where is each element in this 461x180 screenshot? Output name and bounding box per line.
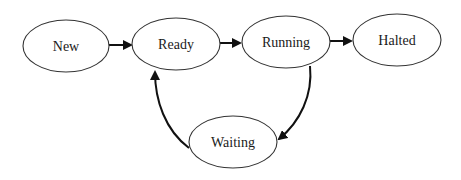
node-ready-label: Ready <box>158 37 194 52</box>
node-waiting-label: Waiting <box>211 135 255 150</box>
node-new: New <box>23 20 109 72</box>
node-new-label: New <box>53 39 80 54</box>
node-halted: Halted <box>353 14 441 66</box>
edge-running-to-waiting <box>279 66 310 139</box>
node-ready: Ready <box>132 18 220 70</box>
state-diagram: New Ready Running Halted Waiting <box>0 0 461 180</box>
edge-waiting-to-ready <box>155 72 189 148</box>
node-halted-label: Halted <box>378 33 415 48</box>
node-running-label: Running <box>262 35 310 50</box>
node-waiting: Waiting <box>189 116 277 168</box>
node-running: Running <box>242 16 330 68</box>
